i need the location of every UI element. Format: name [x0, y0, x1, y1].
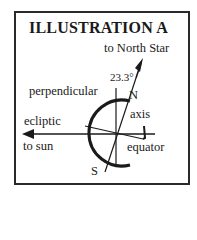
equator-hook	[143, 126, 145, 139]
perpendicular-label: perpendicular	[29, 84, 98, 99]
earth-outline	[89, 100, 130, 166]
ecliptic-label: ecliptic	[24, 114, 61, 129]
axis-label: axis	[130, 107, 150, 122]
sun-arrow-icon	[22, 129, 34, 139]
angle-label: 23.3°	[110, 71, 134, 83]
north-label: N	[129, 88, 138, 103]
to-sun-label: to sun	[23, 139, 53, 154]
equator-line	[85, 126, 143, 139]
equator-label: equator	[127, 140, 164, 155]
north-star-label: to North Star	[104, 41, 169, 56]
south-label: S	[91, 164, 98, 179]
